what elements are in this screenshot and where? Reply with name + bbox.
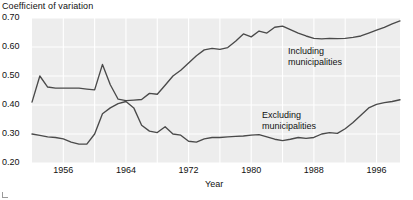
chart-container: Coefficient of variation 0.70 0.60 0.50 … [0,0,413,200]
y-axis-tick-label: 0.50 [2,70,30,80]
series-annotation-including-line1: Including [288,46,342,57]
corner-mark-icon [2,192,8,198]
y-axis-tick-label: 0.20 [2,157,30,167]
y-axis-tick-label: 0.40 [2,99,30,109]
y-axis-tick-label: 0.70 [2,12,30,22]
y-axis-tick-label: 0.60 [2,41,30,51]
x-axis-tick-label: 1964 [116,165,136,175]
series-annotation-excluding-line1: Excluding [262,110,316,121]
x-axis-tick-label: 1972 [179,165,199,175]
series-annotation-including: Including municipalities [288,46,342,67]
series-annotation-excluding-line2: municipalities [262,121,316,132]
series-annotation-including-line2: municipalities [288,57,342,68]
x-axis-title: Year [205,179,223,189]
y-axis-tick-label: 0.30 [2,128,30,138]
series-annotation-excluding: Excluding municipalities [262,110,316,131]
x-axis-tick-label: 1980 [241,165,261,175]
x-axis-tick-label: 1988 [304,165,324,175]
x-axis-tick-label: 1996 [366,165,386,175]
x-axis-tick-label: 1956 [53,165,73,175]
